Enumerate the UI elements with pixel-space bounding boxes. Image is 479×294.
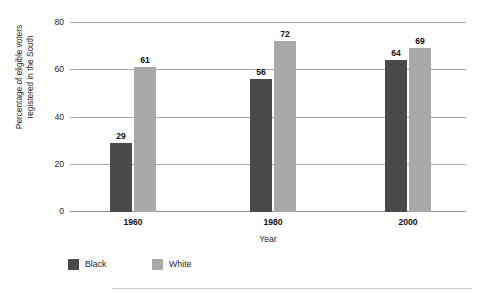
plot-area: 80 60 40 20 0 29 61 1960 56 [70,22,466,212]
legend-swatch-white-icon [152,259,163,270]
legend-swatch-black-icon [68,259,79,270]
bar-group-2000: 64 69 2000 [385,22,431,212]
bar-value-white-1980: 72 [280,29,290,39]
y-axis-title-line-2: registered in the South [25,0,36,172]
y-tick-label-0: 0 [59,206,64,216]
legend-label-white: White [169,259,192,269]
bar-chart: Percentage of eligible voters registered… [0,0,479,294]
bar-white-2000[interactable]: 69 [409,48,431,212]
bar-value-black-1960: 29 [116,131,126,141]
bar-value-black-2000: 64 [391,48,401,58]
bar-group-1960: 29 61 1960 [110,22,156,212]
page-edge-line [112,288,472,289]
legend-label-black: Black [85,259,107,269]
legend-item-white[interactable]: White [152,259,192,270]
bar-black-1960[interactable]: 29 [110,143,132,212]
bar-black-1980[interactable]: 56 [250,79,272,212]
y-axis-title-line-1: Percentage of eligible voters [14,0,25,172]
bar-black-2000[interactable]: 64 [385,60,407,212]
legend-item-black[interactable]: Black [68,259,107,270]
y-axis-title: Percentage of eligible voters registered… [14,0,44,172]
bar-value-black-1980: 56 [256,67,266,77]
bar-value-white-2000: 69 [415,36,425,46]
bar-white-1980[interactable]: 72 [274,41,296,212]
bar-group-1980: 56 72 1980 [250,22,296,212]
y-tick-label-20: 20 [54,159,64,169]
x-tick-label-1980: 1980 [263,217,282,227]
bar-white-1960[interactable]: 61 [134,67,156,212]
x-tick-label-2000: 2000 [398,217,417,227]
x-tick-label-1960: 1960 [123,217,142,227]
bar-value-white-1960: 61 [140,55,150,65]
y-tick-label-60: 60 [54,64,64,74]
y-tick-label-80: 80 [54,17,64,27]
x-axis-title: Year [70,234,466,244]
y-tick-label-40: 40 [54,112,64,122]
